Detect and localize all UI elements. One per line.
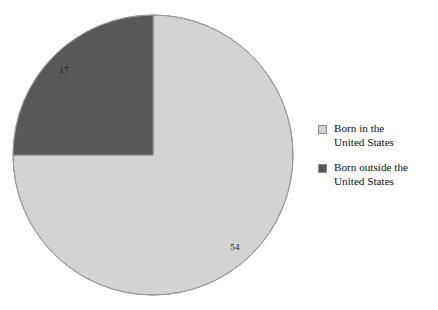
legend-swatch-light-icon xyxy=(318,125,327,134)
pie-chart-figure: 17 54 Born in the United States Born out… xyxy=(0,0,438,310)
legend-swatch-dark-icon xyxy=(318,164,327,173)
legend-label-born-in-united-states: Born in the United States xyxy=(334,122,394,149)
legend-item-born-in-united-states[interactable]: Born in the United States xyxy=(318,122,438,149)
legend-label-born-outside-united-states: Born outside the United States xyxy=(334,161,408,188)
pie-slice-born-outside-united-states[interactable] xyxy=(13,15,153,155)
chart-legend: Born in the United States Born outside t… xyxy=(318,122,438,200)
slice-label-light: 54 xyxy=(230,242,240,252)
slice-label-dark: 17 xyxy=(59,65,69,75)
legend-item-born-outside-united-states[interactable]: Born outside the United States xyxy=(318,161,438,188)
